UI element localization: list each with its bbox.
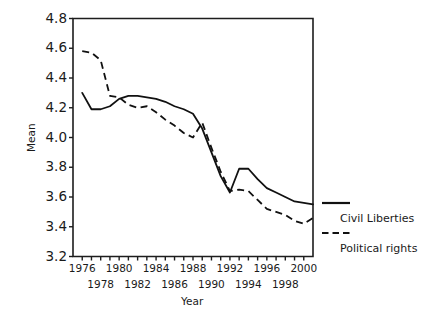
x-tick-label: 1976 <box>62 263 102 274</box>
y-tick-label: 4.6 <box>27 41 67 55</box>
y-tick-label: 4.2 <box>27 101 67 115</box>
x-tick-label: 1978 <box>81 279 121 290</box>
x-tick-label: 1986 <box>155 279 195 290</box>
x-axis-title: Year <box>181 296 203 307</box>
y-tick-label: 4.8 <box>27 12 67 26</box>
x-tick-label: 2000 <box>284 263 324 274</box>
chart-figure: 3.23.43.63.84.04.24.44.64.8 197619801984… <box>0 0 425 319</box>
x-tick-label: 1984 <box>136 263 176 274</box>
x-tick-label: 1996 <box>247 263 287 274</box>
series-line-political-rights <box>82 51 313 224</box>
x-tick-label: 1998 <box>265 279 305 290</box>
x-tick-label: 1994 <box>228 279 268 290</box>
y-tick-label: 4.4 <box>27 71 67 85</box>
y-tick-label: 3.4 <box>27 220 67 234</box>
y-tick-label: 3.2 <box>27 250 67 264</box>
x-tick-label: 1992 <box>210 263 250 274</box>
x-tick-label: 1988 <box>173 263 213 274</box>
series-line-civil-liberties <box>82 93 313 205</box>
y-tick-label: 3.8 <box>27 160 67 174</box>
chart-series-lines <box>82 51 313 224</box>
x-tick-label: 1980 <box>99 263 139 274</box>
x-tick-label: 1990 <box>191 279 231 290</box>
legend-label-political-rights: Political rights <box>340 243 417 254</box>
x-tick-label: 1982 <box>118 279 158 290</box>
legend-label-civil-liberties: Civil Liberties <box>340 213 414 224</box>
y-axis-title: Mean <box>26 123 37 152</box>
y-tick-label: 3.6 <box>27 190 67 204</box>
